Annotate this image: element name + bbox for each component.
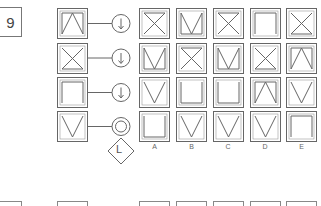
next-question-box [176,201,207,206]
option-a-row-1-x-top-bar [139,8,170,39]
next-question-box [57,201,88,206]
double-circle-icon [112,118,130,136]
option-e-row-4-inverted-u [286,111,317,142]
option-d-row-3-lambda-top-bar [250,77,281,108]
option-a-row-4-u [139,111,170,142]
sequence-tile-v [57,111,88,142]
sequence-tile-inverted-u [57,77,88,108]
next-question-box [213,201,244,206]
option-b-row-1-m-bottom [176,8,207,39]
option-e-row-1-x-bottom-bar [286,8,317,39]
option-c-row-3-u [213,77,244,108]
option-b-row-4-v [176,111,207,142]
next-question-box [139,201,170,206]
option-b-row-3-u [176,77,207,108]
option-e-row-2-lambda-top-bar [286,43,317,74]
arrow-down-circle-icon [112,15,130,33]
option-d-row-1-inverted-u [250,8,281,39]
question-number: 9 [6,14,14,31]
sequence-tile-x-bottom-bar [57,43,88,74]
next-question-box [286,201,317,206]
next-question-box [250,201,281,206]
option-e-row-3-v [286,77,317,108]
option-d-row-2-x-bottom-bar [250,43,281,74]
sequence-tile-lambda-top-bar [57,8,88,39]
arrow-down-circle-icon [112,84,130,102]
option-c-row-1-x-top-bar [213,8,244,39]
option-label-a[interactable]: A [139,143,170,150]
option-d-row-4-v [250,111,281,142]
option-a-row-2-m-bottom [139,43,170,74]
option-label-d[interactable]: D [250,143,281,150]
arrow-down-circle-icon [112,49,130,67]
diamond-label: L [116,143,122,155]
question-number-box: 9 [0,7,22,37]
option-a-row-3-v [139,77,170,108]
option-c-row-4-v [213,111,244,142]
option-label-e[interactable]: E [286,143,317,150]
next-question-box [0,201,22,206]
option-label-b[interactable]: B [176,143,207,150]
option-b-row-2-x-top-bar [176,43,207,74]
option-c-row-2-m-bottom [213,43,244,74]
option-label-c[interactable]: C [213,143,244,150]
